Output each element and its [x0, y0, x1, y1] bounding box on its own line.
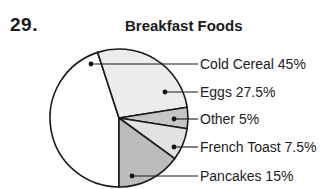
label-other: Other 5%: [200, 111, 259, 127]
leader-dot-french-toast: [172, 145, 177, 150]
leader-dot-other: [172, 117, 177, 122]
label-french-toast: French Toast 7.5%: [200, 139, 316, 155]
label-eggs: Eggs 27.5%: [200, 84, 276, 100]
pie-chart: [0, 0, 334, 189]
leader-dot-pancakes: [130, 174, 135, 179]
leader-dot-eggs: [163, 90, 168, 95]
leader-dot-cold-cereal: [89, 62, 94, 67]
label-cold-cereal: Cold Cereal 45%: [200, 56, 306, 72]
label-pancakes: Pancakes 15%: [200, 168, 293, 184]
